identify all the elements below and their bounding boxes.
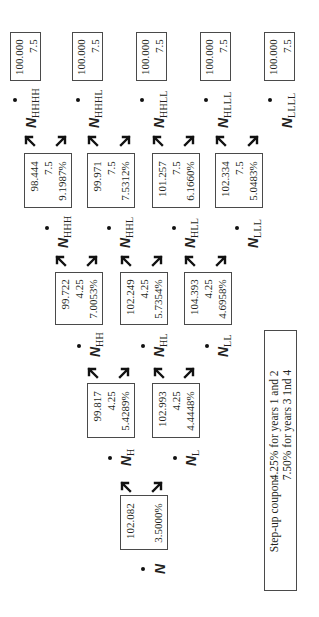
node-value-price: 100.000	[12, 39, 26, 75]
node-value-price: 98.444	[27, 161, 41, 200]
node-dot-hhhh	[13, 98, 17, 102]
node-label-hhh: NHHH	[56, 216, 75, 248]
node-value-rate: 7.5312%	[118, 161, 132, 200]
node-value-coupon: 7.5	[104, 161, 118, 200]
node-label-root: N	[153, 564, 168, 574]
node-box-hl: 102.2494.255.7354%	[120, 272, 168, 325]
arrow-down-left-icon	[183, 367, 195, 379]
node-value-price: 100.000	[138, 39, 152, 75]
node-label-l: NL	[184, 450, 203, 466]
arrow-up-left-icon	[120, 481, 132, 493]
arrow-up-left-icon	[87, 135, 99, 147]
node-value-price: 99.722	[58, 279, 72, 318]
node-value-rate: 5.7354%	[151, 279, 165, 318]
node-label-hll: NHLL	[183, 218, 202, 248]
arrow-up-left-icon	[120, 255, 132, 267]
arrow-up-left-icon	[184, 255, 196, 267]
arrow-down-left-icon	[119, 135, 131, 147]
node-label-hhhl: NHHHL	[87, 89, 106, 128]
legend-key: Step-up coupon:	[268, 480, 281, 552]
node-value-price: 100.000	[266, 39, 280, 75]
node-value-price: 101.257	[155, 161, 169, 200]
node-value-coupon: 7.5	[26, 39, 40, 75]
arrow-down-left-icon	[151, 481, 163, 493]
node-box-l: 102.9934.254.4448%	[152, 383, 200, 438]
node-dot-hhh	[45, 226, 49, 230]
node-value-coupon: 4.25	[72, 279, 86, 318]
node-box-hhhl: 100.0007.5	[72, 32, 103, 81]
node-dot-hh	[77, 344, 81, 348]
arrow-down-left-icon	[55, 135, 67, 147]
node-box-hll: 101.2577.56.1660%	[152, 153, 200, 208]
node-value-rate: 4.6958%	[215, 279, 229, 318]
node-box-ll: 104.3934.254.6958%	[184, 272, 232, 325]
node-value-coupon: 7.5	[169, 161, 183, 200]
node-label-hhl: NHHL	[118, 217, 137, 248]
arrow-down-left-icon	[118, 367, 130, 379]
node-value-rate: 7.0053%	[86, 279, 100, 318]
node-box-hh: 99.7224.257.0053%	[55, 272, 103, 325]
node-label-hhll: NHHLL	[152, 90, 171, 128]
node-box-hhh: 98.4447.59.1987%	[24, 153, 72, 208]
arrow-up-left-icon	[24, 135, 36, 147]
node-value-price: 99.817	[90, 391, 104, 430]
node-value-price: 102.334	[218, 161, 232, 200]
node-value-coupon: 4.25	[104, 391, 118, 430]
node-box-hhl: 99.9717.57.5312%	[87, 153, 135, 208]
node-dot-hll	[172, 226, 176, 230]
node-value-coupon: 7.5	[88, 39, 102, 75]
node-label-lll: NLLL	[246, 219, 265, 248]
node-dot-hhhl	[76, 98, 80, 102]
node-dot-hlll	[204, 98, 208, 102]
node-value-price: 102.249	[123, 279, 137, 318]
node-value-rate: 5.0483%	[246, 161, 260, 200]
node-label-hl: NHL	[152, 333, 171, 357]
node-value-rate: 4.4448%	[183, 391, 197, 430]
arrow-up-left-icon	[55, 255, 67, 267]
node-value-coupon: 4.25	[201, 279, 215, 318]
node-label-hhhh: NHHHH	[24, 88, 43, 128]
node-value-coupon: 4.25	[169, 391, 183, 430]
arrow-down-left-icon	[183, 135, 195, 147]
node-value-coupon	[137, 503, 151, 542]
node-box-hhll: 100.0007.5	[136, 32, 167, 81]
node-dot-llll	[268, 98, 272, 102]
node-value-coupon: 7.5	[280, 39, 294, 75]
arrow-up-left-icon	[152, 135, 164, 147]
node-dot-ll	[205, 344, 209, 348]
node-dot-lll	[235, 226, 239, 230]
node-box-hhhh: 100.0007.5	[10, 32, 41, 81]
arrow-down-left-icon	[86, 255, 98, 267]
step-up-coupon-legend: Step-up coupon:4.25% for years 1 and 2 7…	[264, 330, 297, 591]
node-box-h: 99.8174.255.4289%	[87, 383, 135, 438]
node-value-rate: 9.1987%	[55, 161, 69, 200]
node-box-lll: 102.3347.55.0483%	[215, 153, 263, 208]
node-value-rate: 6.1660%	[183, 161, 197, 200]
node-value-price: 100.000	[74, 39, 88, 75]
node-box-llll: 100.0007.5	[264, 32, 295, 81]
arrow-down-left-icon	[215, 255, 227, 267]
node-dot-hhl	[107, 226, 111, 230]
node-value-price: 99.971	[90, 161, 104, 200]
node-value-price: 102.082	[123, 503, 137, 542]
legend-line-2: 7.50% for years 3 1nd 4	[281, 369, 294, 480]
node-dot-l	[173, 456, 177, 460]
node-value-price: 104.393	[187, 279, 201, 318]
node-box-root: 102.082 3.5000%	[120, 495, 168, 550]
legend-line-1: 4.25% for years 1 and 2	[268, 370, 281, 480]
node-dot-hhll	[140, 98, 144, 102]
arrow-down-left-icon	[151, 255, 163, 267]
node-value-rate: 3.5000%	[151, 503, 165, 542]
arrow-down-left-icon	[247, 135, 259, 147]
node-dot-h	[108, 456, 112, 460]
node-value-coupon: 4.25	[137, 279, 151, 318]
node-value-coupon: 7.5	[152, 39, 166, 75]
node-value-rate: 5.4289%	[118, 391, 132, 430]
node-value-price: 102.993	[155, 391, 169, 430]
node-label-h: NH	[119, 448, 138, 466]
node-value-coupon: 7.5	[216, 39, 230, 75]
node-value-coupon: 7.5	[41, 161, 55, 200]
arrow-up-left-icon	[215, 135, 227, 147]
node-dot-root	[141, 567, 145, 571]
node-box-hlll: 100.0007.5	[200, 32, 231, 81]
